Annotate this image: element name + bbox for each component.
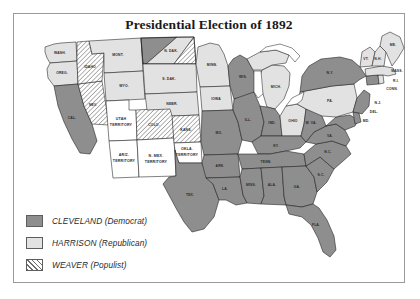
label-massachusetts: MASS. bbox=[391, 69, 403, 73]
label-arkansas: ARK. bbox=[216, 164, 225, 168]
label-new-york: N.Y. bbox=[327, 71, 334, 75]
cleveland-swatch bbox=[26, 215, 43, 227]
map-frame: Presidential Election of 1892 bbox=[13, 13, 405, 283]
map-legend: CLEVELAND (Democrat) HARRISON (Republica… bbox=[26, 210, 226, 276]
legend-item-weaver: WEAVER (Populist) bbox=[26, 254, 226, 276]
label-maine: ME. bbox=[390, 43, 396, 47]
label-oregon: OREG. bbox=[56, 71, 68, 75]
label-georgia: GA. bbox=[294, 185, 300, 189]
label-ohio: OHIO bbox=[288, 119, 297, 123]
state-connecticut bbox=[366, 75, 379, 85]
label-tennessee: TENN. bbox=[261, 160, 272, 164]
label-texas: TEX. bbox=[186, 193, 194, 197]
label-washington: WASH. bbox=[54, 51, 66, 55]
legend-label-cleveland: CLEVELAND (Democrat) bbox=[52, 216, 147, 226]
label-minnesota: MINN. bbox=[207, 63, 217, 67]
label-west-virginia: W. VA. bbox=[305, 121, 316, 125]
state-kentucky bbox=[252, 136, 306, 154]
label-newmexico-territory-line2: TERRITORY bbox=[145, 160, 168, 164]
label-indiana: IND. bbox=[268, 121, 275, 125]
harrison-swatch bbox=[26, 237, 43, 249]
label-new-hampshire: N.H. bbox=[374, 57, 381, 61]
label-arizona-territory-line1: ARIZ. bbox=[119, 153, 129, 157]
label-alabama: ALA. bbox=[268, 183, 277, 187]
legend-item-cleveland: CLEVELAND (Democrat) bbox=[26, 210, 226, 232]
label-vermont: VT. bbox=[363, 57, 368, 61]
label-connecticut: CONN. bbox=[386, 87, 398, 91]
label-missouri: MO. bbox=[216, 131, 223, 135]
label-colorado: COLO. bbox=[148, 123, 160, 127]
label-utah-territory-line1: UTAH bbox=[116, 117, 127, 121]
label-louisiana: LA. bbox=[222, 187, 228, 191]
label-florida: FLA. bbox=[312, 223, 320, 227]
label-kentucky: KY. bbox=[273, 144, 279, 148]
state-rhode-island bbox=[378, 75, 384, 84]
label-new-jersey: N.J. bbox=[375, 101, 382, 105]
label-rhode-island: R.I. bbox=[393, 79, 399, 83]
label-oklahoma-territory-line1: OKLA. bbox=[181, 147, 193, 151]
label-mississippi: MISS. bbox=[246, 183, 256, 187]
label-idaho: IDAHO bbox=[84, 65, 96, 69]
label-montana: MONT. bbox=[112, 53, 123, 57]
label-michigan: MICH. bbox=[271, 85, 281, 89]
label-wyoming: WYO. bbox=[119, 84, 129, 88]
label-wisconsin: WIS. bbox=[239, 75, 247, 79]
label-arizona-territory-line2: TERRITORY bbox=[113, 159, 136, 163]
label-iowa: IOWA bbox=[211, 97, 221, 101]
label-nebraska: NEBR. bbox=[166, 102, 177, 106]
state-florida bbox=[286, 204, 336, 257]
label-pennsylvania: PA. bbox=[327, 99, 333, 103]
label-kansas: KANS. bbox=[180, 128, 191, 132]
label-california: CAL. bbox=[68, 116, 77, 120]
label-virginia: VA. bbox=[327, 134, 333, 138]
label-nevada: NEV. bbox=[89, 103, 97, 107]
label-utah-territory-line2: TERRITORY bbox=[110, 123, 133, 127]
label-delaware: DEL. bbox=[370, 110, 378, 114]
label-south-dakota: S. DAK. bbox=[162, 77, 175, 81]
legend-label-harrison: HARRISON (Republican) bbox=[52, 238, 147, 248]
label-south-carolina: S.C. bbox=[317, 173, 324, 177]
legend-item-harrison: HARRISON (Republican) bbox=[26, 232, 226, 254]
label-north-carolina: N.C. bbox=[324, 150, 331, 154]
label-newmexico-territory-line1: N. MEX. bbox=[149, 154, 164, 158]
label-maryland: MD. bbox=[363, 119, 370, 123]
weaver-swatch bbox=[26, 259, 43, 271]
label-north-dakota: N. DAK. bbox=[164, 49, 178, 53]
label-illinois: ILL. bbox=[245, 118, 252, 122]
legend-label-weaver: WEAVER (Populist) bbox=[52, 260, 127, 270]
label-oklahoma-territory-line2: TERRITORY bbox=[176, 153, 199, 157]
